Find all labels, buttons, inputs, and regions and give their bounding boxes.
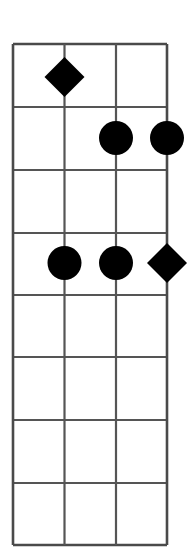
marker-circle-s3-f4[interactable] — [99, 246, 133, 280]
marker-circle-s4-f2[interactable] — [150, 121, 184, 155]
marker-circle-s2-f4[interactable] — [48, 246, 82, 280]
fretboard-diagram — [0, 0, 195, 553]
marker-circle-s3-f2[interactable] — [99, 121, 133, 155]
fretboard-svg — [0, 0, 195, 553]
